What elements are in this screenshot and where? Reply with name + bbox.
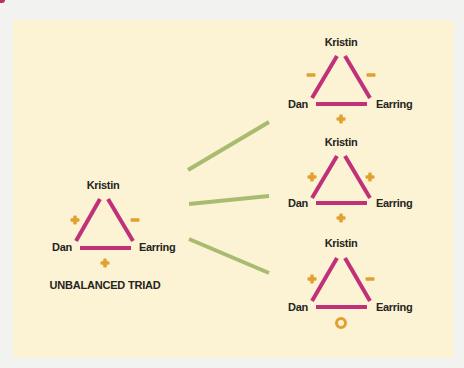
node-left-label: Dan	[288, 301, 308, 313]
minus-sign-icon	[366, 277, 375, 281]
minus-sign-icon	[131, 218, 140, 222]
edge-left	[76, 199, 100, 241]
resolution-triad-3: Kristin Dan Earring	[288, 237, 412, 328]
plus-sign-icon	[337, 115, 346, 124]
plus-sign-icon	[366, 173, 375, 182]
node-top-label: Kristin	[325, 237, 358, 249]
node-right-label: Earring	[376, 301, 412, 313]
connectors	[188, 122, 269, 273]
node-right-label: Earring	[376, 98, 412, 110]
edge-left	[312, 56, 337, 98]
unbalanced-triad: Kristin Dan Earring UNBALANCED TRIAD	[49, 179, 175, 291]
resolution-triad-1: Kristin Dan Earring	[288, 36, 412, 124]
balance-theory-diagram: Kristin Dan Earring UNBALANCED TRIAD Kri…	[0, 0, 464, 368]
plus-sign-icon	[308, 173, 317, 182]
node-top-label: Kristin	[87, 179, 120, 191]
node-left-label: Dan	[52, 241, 72, 253]
resolution-triad-2: Kristin Dan Earring	[288, 136, 412, 223]
minus-sign-icon	[307, 73, 316, 77]
node-left-label: Dan	[288, 197, 308, 209]
node-top-label: Kristin	[325, 136, 358, 148]
triad-title: UNBALANCED TRIAD	[49, 279, 160, 291]
circle-zero-icon	[337, 319, 346, 328]
node-top-label: Kristin	[325, 36, 358, 48]
plus-sign-icon	[308, 275, 317, 284]
plus-sign-icon	[71, 216, 80, 225]
plus-sign-icon	[101, 259, 110, 268]
edge-right	[108, 199, 133, 241]
connector-to-resolution-3	[189, 239, 269, 273]
node-left-label: Dan	[288, 98, 308, 110]
minus-sign-icon	[367, 73, 376, 77]
node-right-label: Earring	[376, 197, 412, 209]
plus-sign-icon	[337, 214, 346, 223]
connector-to-resolution-2	[189, 196, 269, 204]
connector-to-resolution-1	[188, 122, 269, 170]
edge-right	[345, 56, 370, 98]
node-right-label: Earring	[139, 241, 175, 253]
